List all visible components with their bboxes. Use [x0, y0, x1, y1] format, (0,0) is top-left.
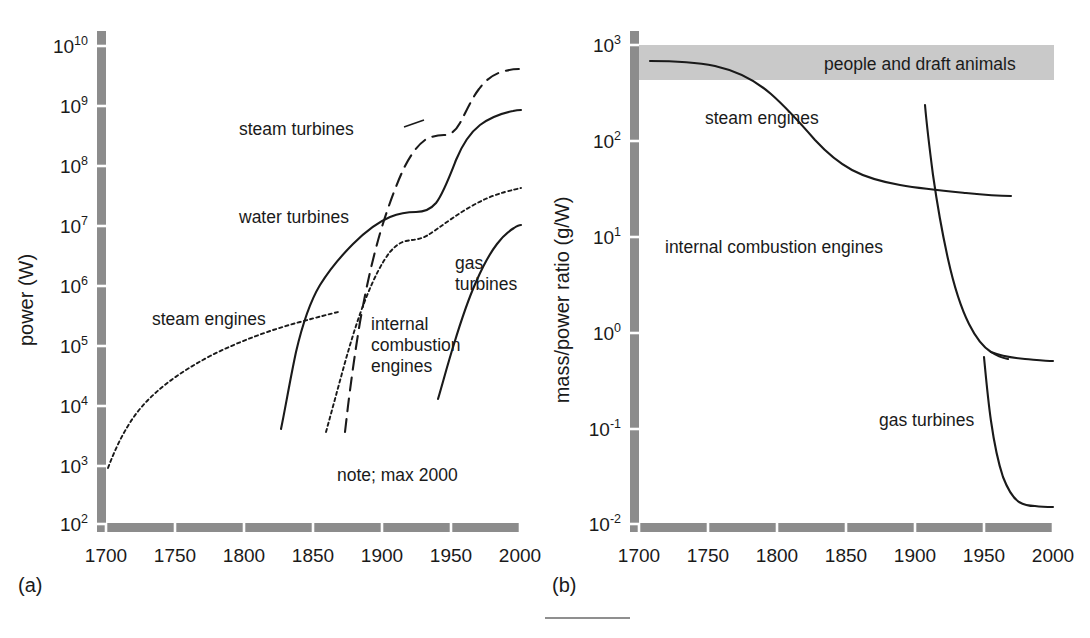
x-tick-label: 2000 — [1032, 545, 1074, 566]
series-curve-steam-turbines-a — [345, 69, 521, 432]
y-tick-exponent: 9 — [81, 94, 88, 108]
x-tick-label: 1900 — [361, 545, 403, 566]
series-label-steam-engines-b: steam engines — [705, 108, 819, 128]
series-label-steam-engines-a: steam engines — [152, 309, 266, 329]
svg-text:103: 103 — [593, 33, 621, 56]
y-tick-mantissa: 10 — [60, 96, 81, 117]
x-tick-labels-b: 1700 1750 1800 1850 1900 1950 2000 — [618, 545, 1074, 566]
y-tick-exponent: 5 — [81, 334, 88, 348]
series-label-gas-turbines-b: gas turbines — [879, 410, 975, 430]
x-tick-label: 2000 — [499, 545, 541, 566]
y-axis-title-a: power (W) — [15, 254, 37, 346]
band-label-people-draft-animals: people and draft animals — [824, 54, 1016, 74]
x-tick-label: 1900 — [894, 545, 936, 566]
y-tick-mantissa: 10 — [593, 323, 614, 344]
svg-text:101: 101 — [593, 225, 621, 248]
y-tick-mantissa: 10 — [60, 276, 81, 297]
series-label-internal-combustion-a-line2: combustion — [371, 335, 461, 355]
svg-text:100: 100 — [593, 321, 621, 344]
y-tick-mantissa: 10 — [60, 514, 81, 535]
note-annotation-a: note; max 2000 — [337, 465, 458, 485]
y-tick-exponent: 6 — [81, 274, 88, 288]
y-tick-mantissa: 10 — [60, 456, 81, 477]
svg-text:109: 109 — [60, 94, 88, 117]
x-axis-a — [97, 523, 521, 532]
x-tick-label: 1950 — [430, 545, 472, 566]
chart-panel-b: 103 102 101 100 10-1 10-2 1700 1750 1800… — [545, 0, 1090, 638]
series-curve-internal-combustion-a — [326, 188, 521, 432]
x-tick-label: 1850 — [292, 545, 334, 566]
x-tick-label: 1800 — [223, 545, 265, 566]
series-label-gas-turbines-a-line2: turbines — [455, 274, 518, 294]
y-tick-mantissa: 10 — [60, 216, 81, 237]
svg-text:10-1: 10-1 — [589, 417, 621, 440]
y-tick-mantissa: 10 — [593, 227, 614, 248]
series-curve-steam-engines-b — [650, 61, 1011, 196]
series-label-steam-turbines-a: steam turbines — [239, 119, 354, 139]
y-tick-exponent: 3 — [81, 454, 88, 468]
chart-a-svg: 1010 109 108 107 106 105 104 103 102 170… — [0, 0, 545, 638]
svg-text:102: 102 — [60, 512, 88, 535]
y-tick-labels-a: 1010 109 108 107 106 105 104 103 102 — [53, 34, 88, 535]
y-tick-exponent: 8 — [81, 154, 88, 168]
series-curve-gas-turbines-b — [984, 357, 1053, 507]
series-label-water-turbines-a: water turbines — [238, 207, 349, 227]
y-tick-exponent: -1 — [610, 417, 621, 431]
panel-tag-b: (b) — [552, 574, 576, 596]
series-label-gas-turbines-a: gas — [455, 253, 483, 273]
x-tick-label: 1750 — [154, 545, 196, 566]
x-tick-label: 1700 — [618, 545, 660, 566]
svg-text:103: 103 — [60, 454, 88, 477]
series-curve-steam-engines-a — [108, 312, 338, 468]
y-tick-mantissa: 10 — [60, 396, 81, 417]
chart-b-svg: 103 102 101 100 10-1 10-2 1700 1750 1800… — [545, 0, 1090, 638]
svg-text:1010: 1010 — [53, 34, 88, 57]
series-label-internal-combustion-a-line3: engines — [371, 356, 433, 376]
x-tick-label: 1700 — [85, 545, 127, 566]
y-tick-exponent: 1 — [614, 225, 621, 239]
y-tick-exponent: 10 — [74, 34, 88, 48]
svg-text:10-2: 10-2 — [589, 512, 621, 535]
x-tick-labels-a: 1700 1750 1800 1850 1900 1950 2000 — [85, 545, 541, 566]
x-tick-label: 1850 — [825, 545, 867, 566]
svg-text:106: 106 — [60, 274, 88, 297]
y-axis-b — [630, 31, 639, 527]
y-tick-mantissa: 10 — [589, 419, 610, 440]
y-tick-mantissa: 10 — [60, 156, 81, 177]
series-curve-water-turbines-a — [281, 110, 521, 429]
y-tick-exponent: 4 — [81, 394, 88, 408]
x-tick-label: 1800 — [756, 545, 798, 566]
y-tick-mantissa: 10 — [593, 131, 614, 152]
y-tick-mantissa: 10 — [53, 36, 74, 57]
x-tick-label: 1750 — [687, 545, 729, 566]
series-curve-internal-combustion-b — [925, 105, 1008, 359]
svg-text:105: 105 — [60, 334, 88, 357]
series-curve-gas-turbines-a — [438, 225, 521, 399]
svg-text:104: 104 — [60, 394, 88, 417]
y-tick-mantissa: 10 — [60, 336, 81, 357]
y-tick-exponent: 2 — [614, 129, 621, 143]
svg-text:107: 107 — [60, 214, 88, 237]
x-axis-b — [630, 523, 1054, 532]
y-tick-exponent: 7 — [81, 214, 88, 228]
y-tick-exponent: -2 — [610, 512, 621, 526]
y-tick-exponent: 3 — [614, 33, 621, 47]
series-label-internal-combustion-a-line1: internal — [371, 314, 428, 334]
series-label-internal-combustion-b: internal combustion engines — [665, 237, 883, 257]
figure-root: 1010 109 108 107 106 105 104 103 102 170… — [0, 0, 1090, 638]
y-tick-exponent: 0 — [614, 321, 621, 335]
y-axis-title-b: mass/power ratio (g/W) — [551, 197, 573, 404]
svg-text:108: 108 — [60, 154, 88, 177]
y-tick-mantissa: 10 — [589, 514, 610, 535]
svg-text:102: 102 — [593, 129, 621, 152]
panel-tag-a: (a) — [18, 574, 42, 596]
y-tick-exponent: 2 — [81, 512, 88, 526]
y-tick-mantissa: 10 — [593, 35, 614, 56]
y-tick-labels-b: 103 102 101 100 10-1 10-2 — [589, 33, 621, 535]
chart-panel-a: 1010 109 108 107 106 105 104 103 102 170… — [0, 0, 545, 638]
leader-steam-turbines — [404, 120, 424, 127]
x-tick-label: 1950 — [963, 545, 1005, 566]
